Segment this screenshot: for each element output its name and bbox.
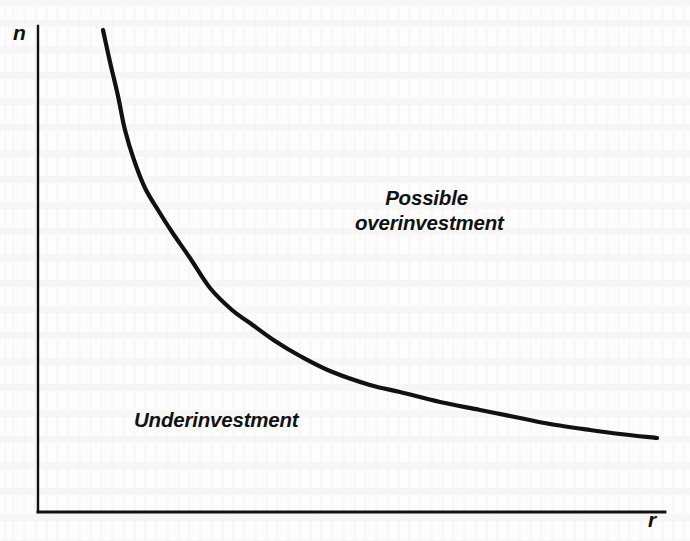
region-label-overinvestment-line2: overinvestment [355,210,498,235]
plot-canvas [0,0,690,541]
y-axis-label: n [13,21,26,45]
economics-figure: n r Possible overinvestment Underinvestm… [0,0,690,541]
region-label-overinvestment-line1: Possible [355,185,498,210]
region-label-underinvestment: Underinvestment [134,407,298,432]
x-axis-label: r [648,508,656,532]
region-label-overinvestment: Possible overinvestment [355,185,498,235]
axes-group [38,26,665,512]
